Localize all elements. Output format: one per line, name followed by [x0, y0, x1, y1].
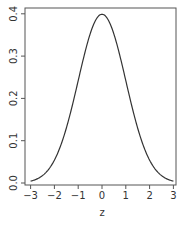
y-axis: 0.00.10.20.30.4 — [8, 6, 25, 191]
x-axis: −3−2−10123 — [23, 185, 176, 201]
x-axis-label: z — [99, 207, 104, 218]
x-tick-label: 1 — [123, 190, 129, 201]
density-chart: 0.00.10.20.30.4 −3−2−10123 z — [0, 0, 182, 225]
x-tick-label: −3 — [23, 190, 38, 201]
y-tick-label: 0.0 — [8, 175, 19, 191]
x-tick-label: 3 — [170, 190, 176, 201]
x-tick-label: 2 — [146, 190, 152, 201]
density-curve — [31, 14, 174, 181]
y-tick-label: 0.1 — [8, 133, 19, 149]
y-tick-label: 0.2 — [8, 90, 19, 106]
y-tick-label: 0.3 — [8, 48, 19, 64]
y-tick-label: 0.4 — [8, 6, 19, 22]
plot-box — [25, 8, 176, 185]
x-tick-label: −2 — [47, 190, 62, 201]
x-tick-label: 0 — [99, 190, 105, 201]
x-tick-label: −1 — [71, 190, 86, 201]
